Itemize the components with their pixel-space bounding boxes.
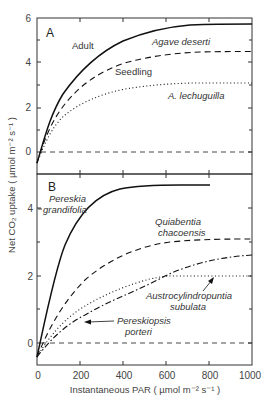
- label-adult: Adult: [72, 40, 94, 51]
- y-tick-b-2: 2: [27, 271, 33, 282]
- x-axis-label: Instantaneous PAR ( µmol m⁻² s⁻¹ ): [70, 384, 220, 395]
- y-tick-a-0: 0: [25, 146, 31, 157]
- x-tick-200: 200: [73, 370, 90, 381]
- label-lechuguilla: A. lechuguilla: [167, 90, 225, 101]
- y-axis-label: Net CO₂ uptake ( µmol m⁻² s⁻¹ ): [6, 117, 17, 253]
- curve-pereskiopsis-porteri: [37, 255, 252, 357]
- label-pereskiopsis-1: Pereskiopsis: [117, 315, 171, 326]
- figure: 0 2 4 6 A Adult Agave deserti Seedling A…: [0, 0, 273, 409]
- x-tick-400: 400: [116, 370, 133, 381]
- y-tick-b-0: 0: [27, 338, 33, 349]
- label-austro-2: subulata: [170, 301, 206, 312]
- panel-b-label: B: [48, 180, 56, 194]
- label-pereskia-1: Pereskia: [49, 193, 86, 204]
- label-pereskiopsis-2: porteri: [124, 326, 153, 337]
- label-quiabentia-1: Quiabentia: [155, 216, 201, 227]
- panel-b: 0 2 4 B Pereskia grandifolia Quiabentia …: [27, 174, 252, 365]
- x-tick-0: 0: [35, 370, 41, 381]
- panel-a: 0 2 4 6 A Adult Agave deserti Seedling A…: [25, 13, 252, 174]
- arrow-head-austrocylindropuntia: [208, 277, 214, 284]
- y-tick-a-2: 2: [25, 102, 31, 113]
- label-agave-deserti: Agave deserti: [151, 36, 211, 47]
- label-austro-1: Austrocylindropuntia: [145, 290, 232, 301]
- y-tick-a-4: 4: [25, 57, 31, 68]
- label-seedling: Seedling: [115, 66, 152, 77]
- arrow-pereskiopsis: [88, 321, 114, 322]
- label-quiabentia-2: chacoensis: [158, 227, 206, 238]
- y-tick-a-6: 6: [25, 13, 31, 24]
- x-axis: 0 200 400 600 800 1000 Instantaneous PAR…: [35, 370, 261, 395]
- panel-a-label: A: [46, 26, 54, 40]
- arrow-head-pereskiopsis: [84, 320, 91, 325]
- x-tick-600: 600: [159, 370, 176, 381]
- x-tick-800: 800: [202, 370, 219, 381]
- y-tick-b-4: 4: [27, 203, 33, 214]
- x-tick-1000: 1000: [239, 370, 262, 381]
- label-pereskia-2: grandifolia: [43, 204, 87, 215]
